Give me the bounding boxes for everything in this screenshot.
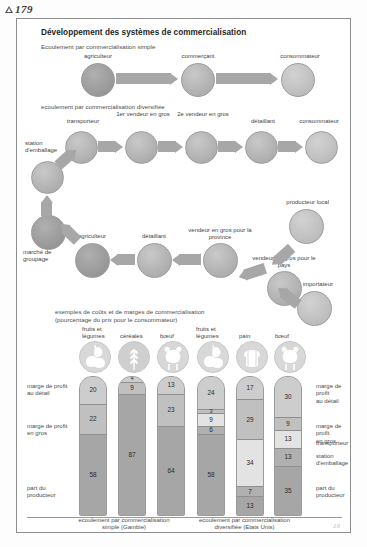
bar-segment: 35 (275, 467, 301, 515)
bar-segment-value: 64 (167, 468, 174, 474)
bar-segment: 9 (119, 383, 145, 395)
bar-segment-value: 13 (167, 382, 174, 388)
node-consommateur-2 (305, 131, 338, 164)
legend-right-transporter-line1: transporteur (316, 440, 348, 447)
bar-segment-value: 24 (207, 390, 214, 396)
bar-segment-value: 20 (89, 387, 96, 393)
bar-diversified-1: 2439658 (197, 376, 225, 516)
bar-segment-value: 13 (246, 503, 253, 509)
arrow-detaillant-to-consommateur (278, 141, 303, 152)
legend-right-transporter: transporteur (316, 440, 348, 447)
product-label-4b: légumes (196, 333, 236, 340)
bar-segment-value: 22 (89, 416, 96, 422)
bar-segment-value: 9 (286, 421, 290, 427)
node-label-transporteur: transporteur (55, 118, 111, 125)
bar-segment-value: 87 (128, 452, 135, 458)
node-consommateur-1 (281, 63, 315, 97)
bar-segment-value: 58 (89, 472, 96, 478)
page-folio: 19 (333, 522, 340, 530)
arrow-vg1-to-vg2 (158, 141, 183, 152)
product-label-5: pain (239, 333, 275, 340)
bar-segment: 13 (275, 449, 301, 467)
node-agriculteur-1 (81, 63, 115, 97)
legend-right-producer-share-line1: part du (316, 485, 345, 492)
bar-segment-value: 7 (248, 489, 252, 495)
bar-segment: 24 (198, 377, 224, 410)
node-importateur (297, 291, 332, 326)
page-marker: 179 (5, 3, 33, 15)
node-label-station-emballage: station d'emballage (25, 140, 69, 154)
node-detaillant-1 (245, 131, 278, 164)
node-label-marche-groupage: marché de groupage (23, 249, 71, 263)
bar-segment: 30 (275, 377, 301, 418)
product-label-1b: légumes (82, 333, 122, 340)
bar-segment: 64 (158, 427, 184, 515)
caption-left-line2: simple (Gambie) (69, 524, 179, 531)
legend-right-packing-station-line2: d'emballage (316, 460, 348, 467)
beef-icon-2 (274, 341, 306, 373)
bar-diversified-2: 172934713 (236, 376, 264, 516)
node-label-consommateur-1: consommateur (269, 53, 331, 60)
fruits-vegetables-icon (79, 341, 111, 373)
bar-segment: 22 (80, 405, 106, 435)
bar-segment-value: 13 (284, 436, 291, 442)
arrow-commercant-to-consommateur (216, 73, 278, 84)
bar-segment-value: 9 (209, 417, 213, 423)
node-label-detaillant-1: détaillant (235, 118, 291, 125)
bread-icon (236, 341, 268, 373)
bar-segment: 7 (237, 487, 263, 497)
legend-right-retail-margin: marge de profit au détail (316, 383, 350, 405)
product-label-2: céréales (120, 333, 160, 340)
node-label-importateur: importateur (267, 281, 333, 288)
costs-heading-line2: (pourcentage du prix pour le consommateu… (55, 316, 177, 323)
bar-segment: 34 (237, 440, 263, 487)
bar-diversified-3: 309131335 (274, 376, 302, 516)
bar-segment-value: 9 (130, 385, 134, 391)
legend-left-wholesale-margin: marge de profit en gros (27, 423, 67, 438)
page-marker-number: 179 (15, 3, 33, 15)
costs-heading-line1: exemples de coûts et de marges de commer… (55, 308, 205, 315)
bar-segment-value: 35 (284, 488, 291, 494)
node-detaillant-2 (137, 243, 172, 278)
bar-segment-value: 23 (167, 407, 174, 413)
legend-left-retail-margin-line1: marge de profit (27, 383, 67, 390)
legend-right-producer-share: part du producteur (316, 485, 345, 500)
bar-segment: 58 (198, 435, 224, 515)
content-frame: Développement des systèmes de commercial… (16, 18, 351, 533)
cereals-icon (118, 341, 150, 373)
legend-right-packing-station: station d'emballage (316, 453, 348, 468)
product-label-3: bœuf (160, 333, 196, 340)
bar-segment-value: 17 (246, 385, 253, 391)
arrow-detaillant2-to-agriculteur2 (110, 254, 135, 265)
bar-segment: 58 (80, 435, 106, 515)
bar-segment-value: 34 (246, 460, 253, 466)
legend-left-producer-share-line2: producteur (27, 492, 56, 499)
caption-right: ecoulement par commercialisation diversi… (187, 517, 302, 532)
legend-right-retail-margin-line2: au détail (316, 398, 350, 405)
bar-segment: 13 (275, 431, 301, 449)
node-vendeur-gros-2 (185, 131, 218, 164)
bottom-divider (27, 517, 342, 518)
section-label-simple: Ecoulement par commercialisation simple (41, 43, 155, 50)
arrow-transporteur-to-vg1 (98, 141, 123, 152)
bar-segment-value: 13 (284, 454, 291, 460)
caption-left: ecoulement par commercialisation simple … (69, 517, 179, 532)
bar-segment-value: 4 (130, 376, 133, 382)
caption-right-line2: diversifiée (Etats Unis) (187, 524, 302, 531)
legend-right-packing-station-line1: station (316, 453, 348, 460)
node-producteur-local (289, 209, 324, 244)
node-label-vendeur-gros-1: 1er vendeur en gros (115, 111, 171, 118)
beef-icon (157, 341, 189, 373)
legend-left-wholesale-margin-line2: en gros (27, 430, 67, 437)
page-root: 179 Développement des systèmes de commer… (0, 0, 367, 547)
legend-right-retail-margin-line1: marge de profit (316, 383, 350, 398)
node-label-producteur-local: producteur local (265, 199, 329, 206)
arrow-vg2-to-detaillant (218, 141, 243, 152)
bar-segment: 17 (237, 377, 263, 400)
bar-segment: 87 (119, 395, 145, 515)
arrow-agriculteur-to-station (41, 195, 52, 216)
bar-simple-1: 202258 (79, 376, 107, 516)
bar-simple-3: 132364 (157, 376, 185, 516)
bar-segment-value: 6 (209, 427, 213, 433)
page-title: Développement des systèmes de commercial… (41, 28, 246, 37)
